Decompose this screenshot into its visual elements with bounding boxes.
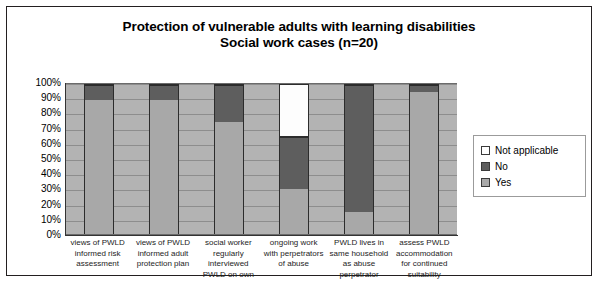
bar-slot bbox=[327, 84, 392, 234]
legend-label: No bbox=[495, 161, 508, 172]
bar-segment-no bbox=[150, 85, 178, 100]
legend-label: Not applicable bbox=[495, 145, 558, 156]
legend-swatch-icon bbox=[481, 146, 490, 155]
y-axis-tick-100: 100% bbox=[35, 78, 61, 88]
x-axis-label-2: views of PWLDinformed adultprotection pl… bbox=[130, 238, 195, 280]
bar-segment-not-applicable bbox=[280, 85, 308, 137]
bar-slot bbox=[392, 84, 457, 234]
bar-segment-yes bbox=[410, 92, 438, 234]
chart-frame: Protection of vulnerable adults with lea… bbox=[6, 6, 592, 276]
bar-segment-yes bbox=[280, 189, 308, 234]
bar-segment-yes bbox=[215, 122, 243, 234]
bar-slot bbox=[66, 84, 131, 234]
y-axis-tick-80: 80% bbox=[41, 108, 61, 118]
x-axis-label-6: assess PWLDaccommodationfor continuedsui… bbox=[392, 238, 457, 280]
legend-swatch-icon bbox=[481, 178, 490, 187]
y-axis-tick-10: 10% bbox=[41, 215, 61, 225]
stacked-bar[interactable] bbox=[409, 84, 439, 234]
y-axis-line bbox=[65, 83, 66, 236]
bar-slot bbox=[262, 84, 327, 234]
stacked-bar[interactable] bbox=[84, 84, 114, 234]
y-axis-tick-labels: 100%90%80%70%60%50%40%30%20%10%0% bbox=[21, 83, 63, 235]
bar-segment-no bbox=[280, 137, 308, 189]
y-axis-tick-20: 20% bbox=[41, 200, 61, 210]
bar-segment-yes bbox=[150, 100, 178, 234]
x-axis-label-1: views of PWLDinformed riskassessment bbox=[65, 238, 130, 280]
legend-item[interactable]: No bbox=[481, 158, 579, 174]
bar-segment-yes bbox=[85, 100, 113, 234]
legend-item[interactable]: Yes bbox=[481, 174, 579, 190]
bar-segment-no bbox=[85, 85, 113, 100]
legend-swatch-icon bbox=[481, 162, 490, 171]
plot-area bbox=[65, 83, 457, 235]
bar-slot bbox=[131, 84, 196, 234]
y-axis-tick-50: 50% bbox=[41, 154, 61, 164]
chart-title-line1: Protection of vulnerable adults with lea… bbox=[123, 19, 476, 34]
bar-series-group bbox=[66, 84, 457, 234]
chart-title-line2: Social work cases (n=20) bbox=[7, 35, 591, 51]
bar-segment-no bbox=[410, 85, 438, 92]
stacked-bar[interactable] bbox=[344, 84, 374, 234]
stacked-bar[interactable] bbox=[214, 84, 244, 234]
bar-segment-no bbox=[215, 85, 243, 122]
y-axis-tick-0: 0% bbox=[47, 230, 61, 240]
bar-slot bbox=[196, 84, 261, 234]
legend-item[interactable]: Not applicable bbox=[481, 142, 579, 158]
x-axis-label-4: ongoing workwith perpetratorsof abuse bbox=[261, 238, 326, 280]
y-axis-tick-40: 40% bbox=[41, 169, 61, 179]
x-axis-line bbox=[65, 235, 458, 236]
bar-segment-no bbox=[345, 85, 373, 212]
y-axis-tick-90: 90% bbox=[41, 93, 61, 103]
chart-title: Protection of vulnerable adults with lea… bbox=[7, 19, 591, 51]
stacked-bar[interactable] bbox=[149, 84, 179, 234]
x-axis-label-3: social workerregularlyinterviewedPWLD on… bbox=[196, 238, 261, 280]
y-axis-tick-30: 30% bbox=[41, 184, 61, 194]
chart-legend: Not applicableNoYes bbox=[473, 135, 586, 197]
y-axis-tick-70: 70% bbox=[41, 124, 61, 134]
x-axis-label-5: PWLD lives insame householdas abuseperpe… bbox=[326, 238, 391, 280]
legend-label: Yes bbox=[495, 177, 511, 188]
x-axis-category-labels: views of PWLDinformed riskassessmentview… bbox=[65, 238, 457, 280]
y-axis-tick-60: 60% bbox=[41, 139, 61, 149]
stacked-bar[interactable] bbox=[279, 84, 309, 234]
bar-segment-yes bbox=[345, 212, 373, 234]
